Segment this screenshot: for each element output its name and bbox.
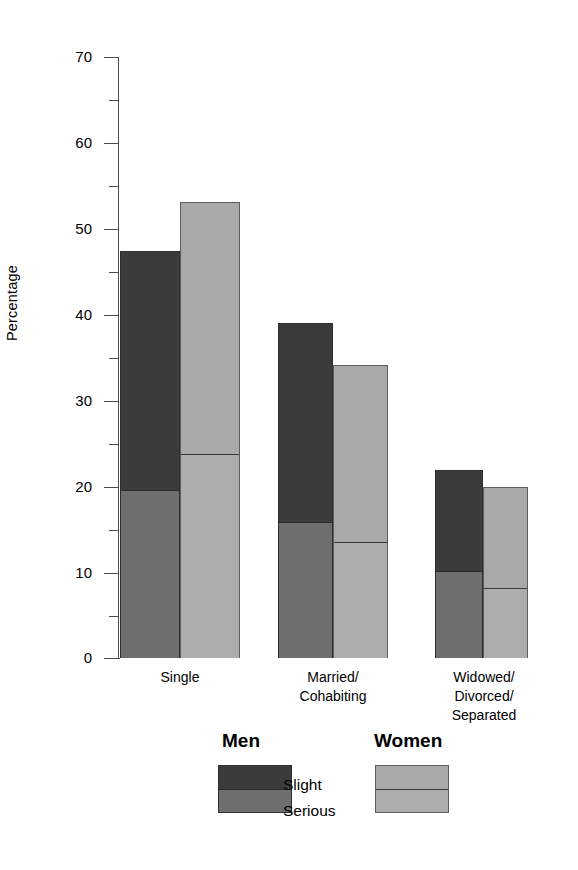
legend-key-serious: Serious xyxy=(283,798,336,824)
y-tick-minor-45 xyxy=(109,272,118,273)
segment-men-serious-married xyxy=(279,522,332,658)
legend-swatch-women-serious xyxy=(376,789,448,812)
y-tick-label-0: 0 xyxy=(84,649,104,666)
y-tick-label-40: 40 xyxy=(75,306,104,323)
bar-men-widowed xyxy=(435,470,483,658)
bar-men-married xyxy=(278,323,333,658)
legend-swatch-women xyxy=(375,765,449,813)
y-tick-label-60: 60 xyxy=(75,134,104,151)
legend-key-slight: Slight xyxy=(283,772,336,798)
y-tick-label-70: 70 xyxy=(75,48,104,65)
legend-swatch-men-serious xyxy=(219,789,291,812)
plot-area xyxy=(119,57,559,658)
y-tick-minor-65 xyxy=(109,100,118,101)
segment-women-serious-single xyxy=(181,454,239,658)
y-tick-minor-15 xyxy=(109,530,118,531)
bar-men-single xyxy=(120,251,180,658)
bar-chart: Percentage 70 60 50 40 30 20 10 0 xyxy=(0,0,578,870)
x-axis-label-widowed: Widowed/ Divorced/ Separated xyxy=(429,668,539,725)
y-tick-60: 60 xyxy=(104,143,118,144)
x-axis-label-married: Married/ Cohabiting xyxy=(273,668,393,706)
bar-women-widowed xyxy=(483,487,528,658)
y-tick-label-20: 20 xyxy=(75,478,104,495)
segment-men-slight-married xyxy=(279,324,332,522)
segment-women-serious-widowed xyxy=(484,588,527,658)
bar-women-married xyxy=(333,365,388,658)
y-tick-0: 0 xyxy=(104,658,118,659)
y-tick-label-30: 30 xyxy=(75,392,104,409)
y-tick-label-10: 10 xyxy=(75,564,104,581)
legend-swatch-women-slight xyxy=(376,766,448,789)
y-tick-30: 30 xyxy=(104,401,118,402)
y-tick-40: 40 xyxy=(104,315,118,316)
y-tick-minor-55 xyxy=(109,186,118,187)
axis-baseline xyxy=(118,658,120,659)
bar-women-single xyxy=(180,202,240,658)
y-axis-title: Percentage xyxy=(4,228,20,378)
legend-swatch-men xyxy=(218,765,292,813)
y-tick-10: 10 xyxy=(104,573,118,574)
segment-women-slight-married xyxy=(334,366,387,542)
y-tick-minor-5 xyxy=(109,616,118,617)
segment-men-serious-widowed xyxy=(436,571,482,658)
y-tick-minor-35 xyxy=(109,358,118,359)
legend-swatch-men-slight xyxy=(219,766,291,789)
segment-women-slight-single xyxy=(181,203,239,454)
y-tick-label-50: 50 xyxy=(75,220,104,237)
segment-women-slight-widowed xyxy=(484,488,527,588)
y-tick-50: 50 xyxy=(104,229,118,230)
segment-men-slight-widowed xyxy=(436,471,482,571)
x-axis-label-single: Single xyxy=(120,668,240,687)
legend-title-women: Women xyxy=(374,730,442,752)
y-tick-minor-25 xyxy=(109,444,118,445)
segment-men-serious-single xyxy=(121,490,179,658)
legend-title-men: Men xyxy=(222,730,260,752)
y-tick-20: 20 xyxy=(104,487,118,488)
y-tick-70: 70 xyxy=(104,57,118,58)
segment-women-serious-married xyxy=(334,542,387,658)
segment-men-slight-single xyxy=(121,252,179,490)
legend-key-labels: Slight Serious xyxy=(283,772,336,824)
